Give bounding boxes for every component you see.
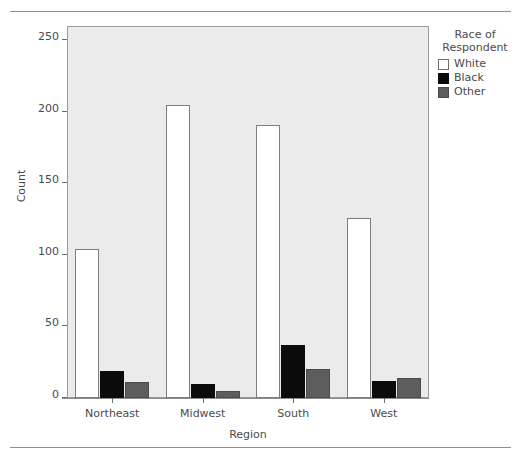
legend-item-white: White (438, 58, 518, 70)
y-tick-line (62, 182, 67, 183)
legend-title-line2: Respondent (432, 41, 518, 54)
y-axis-title: Count (15, 170, 28, 203)
x-tick-line (384, 398, 385, 403)
x-tick-label: West (370, 408, 397, 420)
x-axis-line (62, 398, 429, 399)
bar-midwest-white (166, 105, 190, 398)
bar-west-white (347, 218, 371, 398)
bar-west-other (397, 378, 421, 398)
legend-swatch-other-icon (438, 87, 449, 98)
bar-south-black (281, 345, 305, 398)
bar-northeast-other (125, 382, 149, 398)
y-tick-line (62, 111, 67, 112)
legend-label: Other (454, 86, 485, 98)
x-tick-line (203, 398, 204, 403)
bar-south-other (306, 369, 330, 398)
y-tick-label: 100 (38, 246, 59, 257)
plot-area (67, 26, 429, 398)
bar-northeast-black (100, 371, 124, 398)
y-tick-label: 50 (45, 317, 59, 328)
y-tick-label: 200 (38, 103, 59, 114)
y-tick-line (62, 39, 67, 40)
legend-label: Black (454, 72, 484, 84)
y-tick-label: 250 (38, 31, 59, 42)
legend-title-line1: Race of (432, 28, 518, 41)
bar-west-black (372, 381, 396, 398)
bar-south-white (256, 125, 280, 398)
y-tick-line (62, 254, 67, 255)
legend-swatch-black-icon (438, 73, 449, 84)
chart-legend: Race of Respondent WhiteBlackOther (432, 28, 518, 100)
x-axis-title: Region (229, 428, 267, 441)
x-tick-label: Northeast (85, 408, 139, 420)
bar-midwest-black (191, 384, 215, 398)
x-tick-line (293, 398, 294, 403)
legend-item-black: Black (438, 72, 518, 84)
bar-midwest-other (216, 391, 240, 398)
legend-item-other: Other (438, 86, 518, 98)
bar-chart-figure: Count 050100150200250 Region NortheastMi… (0, 0, 521, 460)
legend-swatch-white-icon (438, 59, 449, 70)
x-tick-line (112, 398, 113, 403)
x-tick-label: Midwest (180, 408, 225, 420)
x-axis: Region NortheastMidwestSouthWest (67, 398, 429, 448)
y-axis: Count 050100150200250 (0, 0, 67, 460)
legend-items: WhiteBlackOther (432, 58, 518, 98)
y-tick-label: 0 (52, 389, 59, 400)
bar-northeast-white (75, 249, 99, 398)
y-tick-line (62, 325, 67, 326)
y-tick-label: 150 (38, 174, 59, 185)
legend-label: White (454, 58, 486, 70)
x-tick-label: South (277, 408, 309, 420)
top-divider (10, 11, 511, 12)
